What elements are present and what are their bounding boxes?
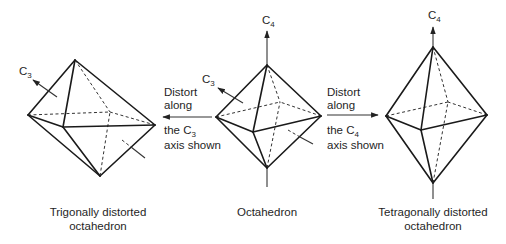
trigonal-octahedron: C3 Trigonally distorted octahedron bbox=[19, 60, 155, 232]
edge bbox=[386, 47, 433, 116]
edge bbox=[63, 127, 100, 176]
edge bbox=[28, 115, 63, 127]
transition-text: along bbox=[327, 99, 355, 111]
c3-axis-label: C3 bbox=[202, 73, 215, 88]
distort-c4-transition: Distort along the C4 axis shown bbox=[327, 86, 384, 151]
c3-axis-label: C3 bbox=[19, 65, 32, 80]
transition-text: axis shown bbox=[164, 139, 221, 151]
distort-c3-transition: Distort along the C3 axis shown bbox=[163, 86, 221, 151]
tetragonal-octahedron: C4 Tetragonally distorted octahedron bbox=[378, 9, 487, 232]
edge bbox=[63, 125, 155, 127]
hidden-edge bbox=[100, 112, 110, 176]
c3-axis-tail bbox=[131, 147, 145, 158]
edge bbox=[75, 60, 155, 125]
edge bbox=[100, 125, 155, 176]
c3-axis-hidden bbox=[122, 140, 131, 147]
edge bbox=[216, 117, 253, 132]
edge bbox=[421, 47, 433, 130]
edge bbox=[267, 65, 321, 116]
caption-line-1: Octahedron bbox=[237, 206, 297, 218]
c3-axis-arrow bbox=[218, 88, 243, 103]
hidden-edge bbox=[280, 102, 321, 116]
c4-axis-label: C4 bbox=[262, 14, 275, 29]
edge bbox=[28, 60, 75, 115]
transition-text: Distort bbox=[164, 86, 198, 98]
caption-line-2: octahedron bbox=[69, 220, 127, 232]
edge bbox=[267, 116, 321, 168]
caption-line-1: Tetragonally distorted bbox=[378, 206, 487, 218]
c3-axis-tail bbox=[300, 137, 313, 144]
c4-axis-label: C4 bbox=[428, 9, 441, 24]
transition-text: along bbox=[164, 99, 192, 111]
hidden-edge bbox=[216, 102, 280, 117]
edge bbox=[63, 60, 75, 127]
edge bbox=[433, 47, 487, 115]
transition-text: axis shown bbox=[327, 139, 384, 151]
c3-axis-hidden bbox=[288, 130, 300, 137]
caption-line-2: octahedron bbox=[404, 220, 462, 232]
hidden-edge bbox=[386, 102, 448, 116]
edge bbox=[253, 65, 267, 132]
transition-text: the C3 bbox=[164, 124, 197, 139]
edge bbox=[216, 117, 267, 168]
edge bbox=[253, 132, 267, 168]
regular-octahedron: C4 C3 Octahedron bbox=[202, 14, 321, 218]
hidden-edge bbox=[28, 112, 110, 115]
hidden-edge bbox=[433, 102, 448, 183]
octahedron-distortion-diagram: C3 Trigonally distorted octahedron Disto… bbox=[0, 0, 506, 244]
caption-line-1: Trigonally distorted bbox=[50, 206, 147, 218]
transition-text: Distort bbox=[327, 86, 361, 98]
hidden-edge bbox=[75, 60, 110, 112]
transition-text: the C4 bbox=[327, 124, 360, 139]
edge bbox=[253, 116, 321, 132]
